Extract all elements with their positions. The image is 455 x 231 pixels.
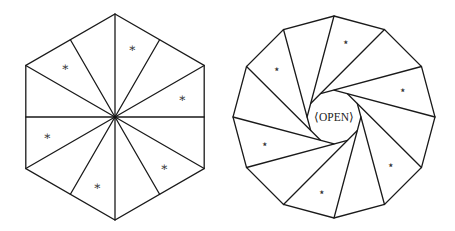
- star-mark: ⋆: [342, 35, 350, 49]
- spoke-to-midpoint: [70, 40, 115, 117]
- center-dot: [113, 115, 116, 118]
- spoke-to-vertex: [26, 66, 115, 118]
- spoke-to-midpoint: [115, 117, 160, 194]
- spoke-to-midpoint: [115, 40, 160, 117]
- star-mark: ∗: [93, 179, 101, 193]
- star-mark: ⋆: [318, 185, 326, 199]
- spoke-to-vertex: [115, 66, 204, 118]
- pinwheel-blade-line: [307, 16, 334, 117]
- pinwheel-blade-line: [334, 117, 361, 218]
- spoke-to-vertex: [26, 117, 115, 169]
- star-mark: ∗: [61, 60, 69, 74]
- pinwheel-blade-line: [347, 94, 421, 168]
- pinwheel-blade-line: [357, 104, 384, 205]
- open-center-label: ⟨OPEN⟩: [314, 111, 354, 123]
- star-mark: ∗: [160, 160, 168, 174]
- star-mark: ⋆: [261, 137, 269, 151]
- star-mark: ⋆: [273, 62, 281, 76]
- star-mark: ⋆: [399, 83, 407, 97]
- dodecagon-pinwheel-diagram: ⟨OPEN⟩⋆⋆⋆⋆⋆⋆: [233, 16, 435, 218]
- pinwheel-blade-line: [247, 67, 321, 141]
- star-mark: ∗: [43, 129, 51, 143]
- star-mark: ⋆: [387, 158, 395, 172]
- star-mark: ∗: [128, 41, 136, 55]
- pinwheel-blade-line: [284, 30, 311, 131]
- figure-canvas: ∗∗∗∗∗∗ ⟨OPEN⟩⋆⋆⋆⋆⋆⋆: [0, 0, 455, 231]
- star-mark: ∗: [178, 91, 186, 105]
- hexagon-fan-diagram: ∗∗∗∗∗∗: [26, 14, 204, 220]
